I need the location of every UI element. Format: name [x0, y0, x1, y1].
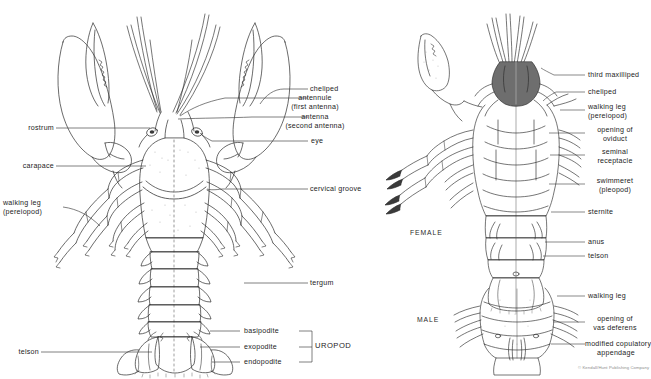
label-female: FEMALE [410, 229, 443, 238]
label-seminal-receptacle: seminal receptacle [588, 148, 642, 165]
label-antenna: antenna [265, 113, 365, 122]
abdomen-segments [138, 238, 211, 337]
label-seminal-receptacle-line2: receptacle [588, 157, 642, 166]
female-left-appendages [385, 34, 482, 214]
label-eye: eye [311, 137, 323, 146]
label-endopodite: endopodite [244, 358, 282, 367]
label-cheliped-ventral: cheliped [588, 88, 616, 97]
label-cheliped-dorsal: cheliped [310, 85, 338, 94]
label-basipodite: basipodite [244, 327, 279, 336]
label-telson-ventral: telson [588, 252, 608, 261]
label-opening-of-vas-deferens: opening of vas deferens [586, 315, 644, 332]
label-sternite: sternite [588, 208, 613, 217]
carapace [140, 138, 210, 238]
label-swimmeret-line1: swimmeret [588, 177, 642, 186]
label-walking-leg-ventral-line1: walking leg [588, 103, 627, 112]
label-antennule-alt: (first antenna) [265, 103, 365, 112]
label-modified-copulatory-line1: modified copulatory [585, 340, 647, 349]
publisher-credit: © Kendall/Hunt Publishing Company [578, 364, 649, 373]
label-tergum: tergum [310, 279, 334, 288]
ventral-view-drawing [385, 14, 581, 375]
female-antennae [487, 14, 537, 66]
label-walking-leg-dorsal: walking leg (pereiopod) [3, 199, 65, 216]
label-walking-leg-dorsal-line2: (pereiopod) [3, 208, 65, 217]
tail-fan [117, 332, 232, 378]
label-opening-of-vas-deferens-line2: vas deferens [586, 324, 644, 333]
label-walking-leg-dorsal-line1: walking leg [3, 199, 65, 208]
label-telson-dorsal: telson [0, 348, 39, 357]
label-opening-of-oviduct: opening of oviduct [588, 126, 642, 143]
female-right-appendages [547, 94, 581, 185]
label-cervical-groove: cervical groove [310, 185, 361, 194]
antennae-flagella [127, 14, 220, 115]
left-walking-legs [54, 160, 148, 268]
label-walking-leg-ventral: walking leg (pereiopod) [588, 103, 627, 120]
rostrum-and-head [139, 112, 210, 147]
label-modified-copulatory-line2: appendage [585, 349, 647, 358]
label-swimmeret: swimmeret (pleopod) [588, 177, 642, 194]
label-walking-leg-ventral-line2: (pereiopod) [588, 112, 627, 121]
label-carapace: carapace [0, 162, 54, 171]
label-antennule: antennule [265, 94, 365, 103]
female-abdomen [485, 216, 547, 314]
label-opening-of-oviduct-line2: oviduct [588, 135, 642, 144]
label-exopodite: exopodite [244, 343, 277, 352]
label-uropod-group: UROPOD [315, 342, 351, 351]
left-cheliped [58, 23, 131, 188]
label-swimmeret-line2: (pleopod) [588, 186, 642, 195]
label-seminal-receptacle-line1: seminal [588, 148, 642, 157]
label-anus: anus [588, 238, 604, 247]
label-opening-of-vas-deferens-line1: opening of [586, 315, 644, 324]
label-modified-copulatory-appendage: modified copulatory appendage [585, 340, 647, 357]
female-cephalothorax [473, 105, 560, 216]
dorsal-view-drawing [54, 14, 295, 378]
label-antenna-alt: (second antenna) [260, 122, 370, 131]
right-walking-legs [201, 160, 295, 268]
label-male-walking-leg: walking leg [588, 292, 626, 301]
label-third-maxilliped: third maxilliped [588, 71, 639, 80]
label-male: MALE [417, 316, 439, 325]
label-rostrum: rostrum [0, 124, 54, 133]
label-opening-of-oviduct-line1: opening of [588, 126, 642, 135]
